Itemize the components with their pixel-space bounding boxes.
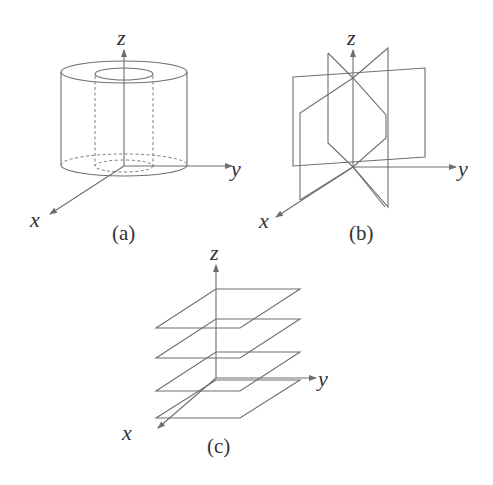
figure-canvas: z y x (a) z y x (b) z y x (c) bbox=[0, 0, 493, 485]
panel-b-z-label: z bbox=[346, 25, 356, 50]
panel-a-caption: (a) bbox=[112, 221, 135, 245]
panel-c-x-label: x bbox=[121, 420, 132, 445]
panel-a-y-label: y bbox=[229, 156, 241, 181]
panel-b-caption: (b) bbox=[349, 221, 374, 245]
panel-c-y-label: y bbox=[316, 366, 328, 391]
panel-a-hollow-cylinder bbox=[50, 50, 232, 214]
panel-c-z-label: z bbox=[209, 240, 219, 265]
panel-a-x-label: x bbox=[29, 207, 40, 232]
panel-b-x-label: x bbox=[258, 208, 269, 233]
panel-b-y-label: y bbox=[456, 156, 468, 181]
x-axis bbox=[50, 166, 124, 214]
panel-b-half-planes bbox=[276, 48, 456, 217]
panel-c-horizontal-planes bbox=[156, 265, 316, 428]
panel-c-caption: (c) bbox=[207, 434, 230, 458]
panel-a-z-label: z bbox=[116, 25, 126, 50]
